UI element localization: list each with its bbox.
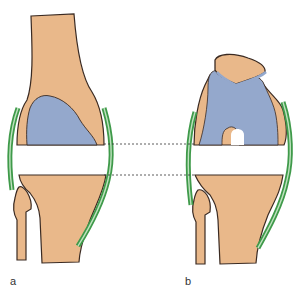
knee-diagram (0, 0, 302, 293)
intercondylar-notch-b (231, 129, 244, 145)
panel-label-a: a (10, 275, 16, 287)
tibia-b (195, 175, 283, 264)
panel-label-b: b (185, 275, 191, 287)
fibula-a (14, 187, 32, 260)
panel-a (10, 14, 111, 263)
panel-b (188, 54, 290, 264)
fibula-b (193, 190, 211, 264)
